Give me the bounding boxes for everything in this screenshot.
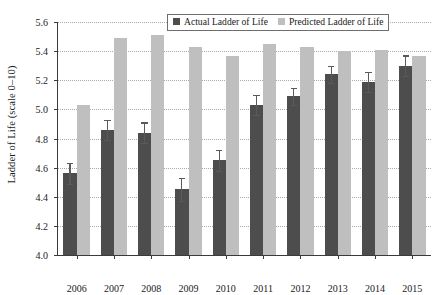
- y-tick-label: 4.2: [22, 220, 48, 231]
- error-cap-lower: [179, 201, 185, 202]
- x-tick-mark: [375, 255, 376, 259]
- y-tick-label: 4.8: [22, 133, 48, 144]
- bars-layer: [58, 22, 431, 255]
- error-cap-lower: [141, 143, 147, 144]
- error-cap-upper: [141, 122, 147, 123]
- error-cap-lower: [253, 115, 259, 116]
- x-tick-label: 2014: [365, 283, 385, 294]
- error-bar: [368, 72, 369, 92]
- y-tick-label: 4.6: [22, 162, 48, 173]
- bar-predicted: [375, 50, 388, 255]
- x-tick-mark: [114, 255, 115, 259]
- y-tick-label: 4.0: [22, 250, 48, 261]
- x-tick-label: 2011: [253, 283, 273, 294]
- bar-actual: [287, 96, 300, 255]
- x-tick-label: 2013: [328, 283, 348, 294]
- x-tick-mark: [412, 255, 413, 259]
- error-cap-lower: [291, 105, 297, 106]
- error-bar: [144, 122, 145, 142]
- bar-actual: [101, 130, 114, 255]
- error-bar: [69, 163, 70, 183]
- bar-actual: [138, 133, 151, 255]
- error-cap-lower: [67, 184, 73, 185]
- bar-actual: [63, 173, 76, 255]
- error-bar: [293, 88, 294, 105]
- error-cap-lower: [216, 171, 222, 172]
- y-tick-mark: [54, 255, 58, 256]
- y-tick-label: 5.2: [22, 75, 48, 86]
- bar-predicted: [263, 44, 276, 255]
- error-cap-upper: [291, 88, 297, 89]
- error-cap-lower: [403, 76, 409, 77]
- legend-swatch-icon: [173, 18, 180, 25]
- legend-label: Predicted Ladder of Life: [289, 17, 384, 27]
- error-cap-upper: [328, 66, 334, 67]
- bar-predicted: [114, 38, 127, 255]
- error-cap-upper: [403, 55, 409, 56]
- x-tick-label: 2008: [141, 283, 161, 294]
- x-tick-label: 2007: [104, 283, 124, 294]
- x-tick-label: 2010: [216, 283, 236, 294]
- x-tick-label: 2009: [179, 283, 199, 294]
- y-tick-label: 5.4: [22, 46, 48, 57]
- chart-container: Ladder of Life (scale 0–10) 4.04.24.44.6…: [0, 0, 436, 295]
- y-tick-label: 4.4: [22, 191, 48, 202]
- bar-predicted: [412, 56, 425, 256]
- x-tick-mark: [226, 255, 227, 259]
- x-tick-mark: [338, 255, 339, 259]
- y-tick-label: 5.6: [22, 17, 48, 28]
- bar-actual: [250, 105, 263, 255]
- bar-predicted: [300, 47, 313, 255]
- bar-predicted: [338, 51, 351, 255]
- bar-predicted: [77, 105, 90, 255]
- error-cap-upper: [104, 120, 110, 121]
- x-tick-mark: [189, 255, 190, 259]
- error-bar: [256, 95, 257, 115]
- plot-area: 4.04.24.44.64.85.05.25.45.6 200620072008…: [57, 22, 431, 256]
- legend-swatch-icon: [278, 18, 285, 25]
- legend-item: Predicted Ladder of Life: [278, 17, 384, 27]
- legend-item: Actual Ladder of Life: [173, 17, 268, 27]
- x-tick-label: 2006: [67, 283, 87, 294]
- x-tick-label: 2012: [290, 283, 310, 294]
- x-tick-label: 2015: [402, 283, 422, 294]
- chart-legend: Actual Ladder of LifePredicted Ladder of…: [167, 14, 389, 31]
- x-tick-mark: [263, 255, 264, 259]
- error-cap-upper: [216, 150, 222, 151]
- error-bar: [107, 120, 108, 140]
- x-tick-mark: [300, 255, 301, 259]
- x-tick-mark: [77, 255, 78, 259]
- bar-actual: [325, 74, 338, 255]
- error-cap-upper: [67, 163, 73, 164]
- bar-predicted: [151, 35, 164, 255]
- legend-label: Actual Ladder of Life: [184, 17, 268, 27]
- y-tick-label: 5.0: [22, 104, 48, 115]
- y-axis-title: Ladder of Life (scale 0–10): [0, 0, 22, 272]
- error-cap-lower: [104, 140, 110, 141]
- bar-actual: [399, 66, 412, 255]
- bar-predicted: [189, 47, 202, 255]
- error-bar: [181, 178, 182, 201]
- error-cap-upper: [179, 178, 185, 179]
- error-cap-upper: [365, 72, 371, 73]
- error-cap-upper: [253, 95, 259, 96]
- bar-predicted: [226, 56, 239, 256]
- error-bar: [219, 150, 220, 170]
- error-bar: [405, 55, 406, 75]
- bar-actual: [362, 82, 375, 255]
- error-cap-lower: [328, 83, 334, 84]
- error-cap-lower: [365, 92, 371, 93]
- x-tick-mark: [151, 255, 152, 259]
- error-bar: [331, 66, 332, 83]
- bar-actual: [213, 160, 226, 255]
